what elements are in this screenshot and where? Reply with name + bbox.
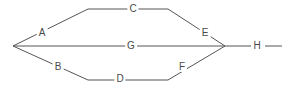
node-label-e: E bbox=[200, 28, 211, 38]
node-label-g: G bbox=[125, 41, 137, 51]
diagram-edges-layer bbox=[0, 0, 290, 91]
edge-upper-left bbox=[13, 9, 88, 46]
node-label-d: D bbox=[114, 74, 125, 84]
node-label-f: F bbox=[177, 62, 187, 72]
node-label-h: H bbox=[251, 41, 262, 51]
node-label-a: A bbox=[37, 28, 48, 38]
diagram-canvas: A C E G H B D F bbox=[0, 0, 290, 91]
node-label-c: C bbox=[127, 4, 138, 14]
edge-lower-left bbox=[13, 46, 88, 80]
node-label-b: B bbox=[53, 62, 64, 72]
edge-upper-right bbox=[168, 9, 225, 46]
